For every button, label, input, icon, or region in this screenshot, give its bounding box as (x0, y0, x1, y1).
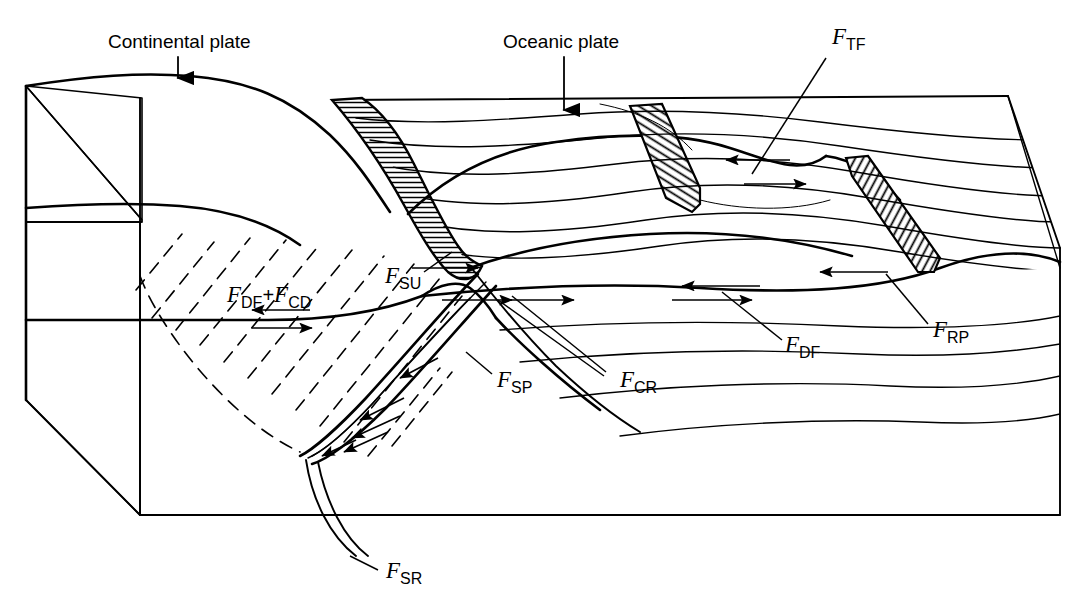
continental-lithosphere-base (26, 296, 422, 320)
force-subscript-FCD: CD (288, 294, 311, 311)
slab-interior-line-2 (312, 298, 470, 456)
force-subscript-FDF-b: DF (799, 344, 821, 361)
continental-base-line (26, 204, 300, 245)
subducting-slab-band (332, 98, 482, 279)
force-plus-sign: + (262, 284, 274, 306)
trench-wedge (422, 266, 640, 432)
leader-FRP (886, 274, 928, 324)
force-label-FCR: FCR (619, 367, 657, 396)
left-face-dark-upper (26, 86, 142, 220)
FSR-curve-inner (318, 462, 368, 556)
force-label-FSR: FSR (385, 558, 422, 587)
block-left-bottom-edge (26, 400, 140, 515)
force-label-FTF: FTF (831, 24, 866, 53)
force-symbol-FDF-a: F (226, 282, 242, 307)
block-left-faces (26, 86, 142, 515)
continental-topography-line (26, 74, 390, 212)
slab-resistance-curve (306, 460, 368, 556)
force-subscript-FSP: SP (511, 379, 532, 396)
force-symbol-FCD: F (273, 282, 289, 307)
force-subscript-FDF-a: DF (241, 294, 263, 311)
motion-arrows (252, 160, 888, 456)
oceanic-plate-label: Oceanic plate (503, 31, 619, 52)
right-back-edge (1008, 96, 1060, 248)
force-label-FSP: FSP (496, 367, 532, 396)
force-symbol-FCR: F (619, 367, 635, 392)
top-surface-flowlines (356, 104, 1060, 272)
force-symbol-FRP: F (932, 317, 948, 342)
block-diagram: Continental plate Oceanic plate FTF FSU … (0, 0, 1072, 598)
left-face-light (26, 222, 140, 515)
slab-upper-surface (300, 274, 478, 456)
subducting-slab (332, 98, 482, 279)
force-label-FDF: FDF (784, 332, 821, 361)
FSR-curve-outer (306, 460, 356, 556)
figure-root: Continental plate Oceanic plate FTF FSU … (0, 0, 1072, 598)
right-inner-edge (1008, 96, 1060, 268)
wedge-right-flank (496, 318, 600, 410)
top-back-edge (332, 96, 1008, 100)
force-subscript-FSU: SU (399, 275, 421, 292)
text-labels: Continental plate Oceanic plate FTF FSU … (108, 24, 969, 587)
mantle-flow-streamlines (500, 316, 1060, 436)
force-symbol-FSR: F (385, 558, 401, 583)
continental-plate-label: Continental plate (108, 31, 251, 52)
asthenosphere-boundary (422, 254, 1060, 296)
leader-FSP (466, 352, 492, 374)
force-subscript-FRP: RP (947, 329, 969, 346)
leader-FSR (350, 556, 378, 570)
force-label-FRP: FRP (932, 317, 969, 346)
force-symbol-FSP: F (496, 367, 512, 392)
force-subscript-FCR: CR (634, 379, 657, 396)
force-subscript-FSR: SR (400, 570, 422, 587)
force-subscript-FTF: TF (846, 36, 866, 53)
force-symbol-FSU: F (384, 263, 400, 288)
oceanic-plate-base (470, 233, 852, 268)
force-symbol-FTF: F (831, 24, 847, 49)
force-symbol-FDF-b: F (784, 332, 800, 357)
